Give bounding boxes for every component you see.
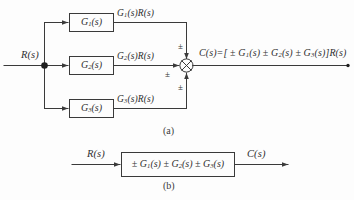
output-terminal-dot-a (346, 64, 349, 67)
caption-part-b: (b) (163, 181, 175, 191)
sum-sign-middle: ± (165, 70, 170, 79)
sum-sign-bottom: ± (178, 83, 183, 92)
caption-part-a: (a) (163, 126, 174, 136)
block-diagram-figure: R(s) G1(s) G2(s) G3(s) G1(s)R(s) G2(s)R(… (0, 0, 354, 200)
signal-label-g1: G1(s)R(s) (117, 9, 154, 19)
takeoff-point-dot (41, 62, 48, 69)
input-label-a: R(s) (21, 50, 39, 61)
signal-label-g2: G2(s)R(s) (117, 52, 154, 62)
block-g2-label: G2(s) (69, 56, 114, 75)
output-equation-a: C(s)=[ ± G1(s) ± G2(s) ± G3(s)]R(s) (199, 48, 346, 59)
signal-label-g3: G3(s)R(s) (117, 95, 154, 105)
input-label-b: R(s) (87, 149, 105, 160)
block-g1-label: G1(s) (69, 13, 114, 32)
block-b-label: ± G1(s) ± G2(s) ± G3(s) (121, 152, 235, 177)
block-g3-label: G3(s) (69, 99, 114, 118)
sum-sign-top: ± (178, 42, 183, 51)
output-label-b: C(s) (247, 149, 265, 160)
